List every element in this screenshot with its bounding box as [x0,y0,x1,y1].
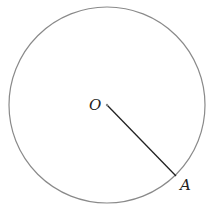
radius-segment-oa [107,105,176,176]
circle-diagram: O A [0,0,219,213]
point-a-label: A [178,176,191,194]
center-point [106,104,108,106]
center-label: O [89,96,101,114]
